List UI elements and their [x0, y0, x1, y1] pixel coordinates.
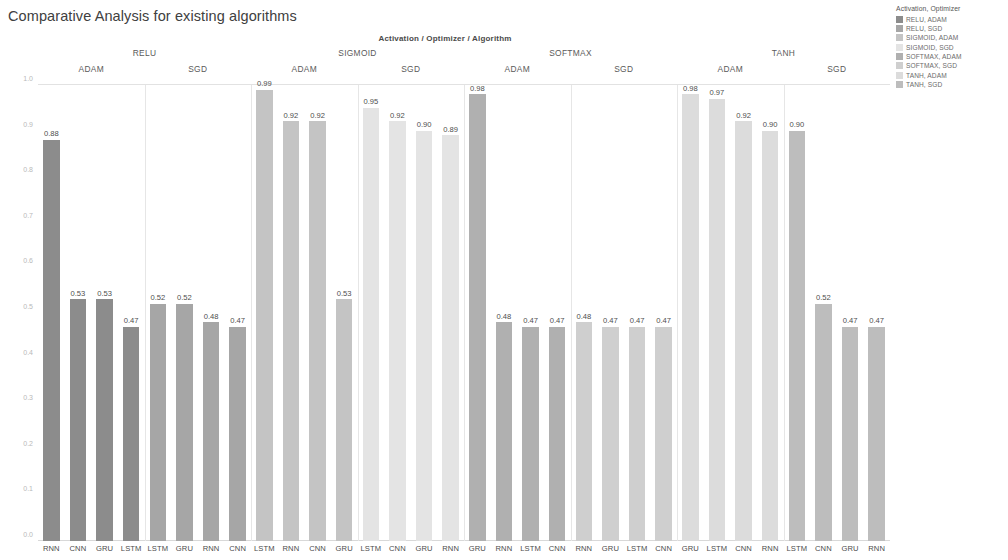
- bar[interactable]: 0.98GRU: [469, 94, 486, 541]
- bar-value-label: 0.48: [576, 312, 591, 321]
- x-axis-tick-label: LSTM: [147, 544, 168, 553]
- bar[interactable]: 0.97LSTM: [709, 99, 726, 541]
- bar[interactable]: 0.90GRU: [416, 131, 433, 541]
- bar[interactable]: 0.92CNN: [389, 121, 406, 541]
- bar[interactable]: 0.53CNN: [70, 299, 87, 541]
- bar-value-label: 0.53: [71, 289, 86, 298]
- bar-value-label: 0.47: [630, 316, 645, 325]
- bar-value-label: 0.47: [656, 316, 671, 325]
- y-axis-tick: 0.3: [23, 394, 33, 401]
- x-axis-tick-label: GRU: [415, 544, 432, 553]
- bar[interactable]: 0.90LSTM: [789, 131, 806, 541]
- bar[interactable]: 0.48RNN: [576, 322, 593, 541]
- bar[interactable]: 0.99LSTM: [256, 90, 273, 541]
- legend-item[interactable]: RELU, ADAM: [896, 15, 1008, 24]
- x-axis-tick-label: CNN: [735, 544, 752, 553]
- bar[interactable]: 0.53GRU: [96, 299, 113, 541]
- bar[interactable]: 0.92RNN: [283, 121, 300, 541]
- bar[interactable]: 0.52LSTM: [150, 304, 167, 541]
- legend-item[interactable]: SOFTMAX, SGD: [896, 61, 1008, 70]
- legend-items: RELU, ADAMRELU, SGDSIGMOID, ADAMSIGMOID,…: [896, 15, 1008, 90]
- x-axis-tick-label: RNN: [283, 544, 300, 553]
- optimizer-header: SGD: [358, 64, 465, 74]
- group-separator: [145, 85, 146, 541]
- bar[interactable]: 0.48RNN: [203, 322, 220, 541]
- bar-value-label: 0.89: [443, 125, 458, 134]
- group-separator: [251, 85, 252, 541]
- bar[interactable]: 0.98GRU: [682, 94, 699, 541]
- x-axis-tick-label: RNN: [496, 544, 513, 553]
- activation-header: SOFTMAX: [464, 48, 677, 58]
- bar[interactable]: 0.90RNN: [762, 131, 779, 541]
- bar[interactable]: 0.92CNN: [309, 121, 326, 541]
- optimizer-header: ADAM: [464, 64, 571, 74]
- bar-value-label: 0.98: [470, 84, 485, 93]
- bar-value-label: 0.88: [44, 129, 59, 138]
- legend-swatch-icon: [896, 16, 903, 23]
- bar[interactable]: 0.52GRU: [176, 304, 193, 541]
- legend-swatch-icon: [896, 81, 903, 88]
- bar-value-label: 0.52: [177, 293, 192, 302]
- y-axis-tick: 0.6: [23, 257, 33, 264]
- bar-value-label: 0.90: [417, 120, 432, 129]
- activation-header: SIGMOID: [251, 48, 464, 58]
- legend-swatch-icon: [896, 53, 903, 60]
- bar[interactable]: 0.47CNN: [655, 327, 672, 541]
- y-axis-tick: 0.8: [23, 166, 33, 173]
- legend-item[interactable]: TANH, ADAM: [896, 71, 1008, 80]
- legend-item[interactable]: TANH, SGD: [896, 80, 1008, 89]
- x-axis-tick-label: RNN: [868, 544, 885, 553]
- bar[interactable]: 0.52CNN: [815, 304, 832, 541]
- optimizer-header: SGD: [145, 64, 252, 74]
- legend-item[interactable]: SIGMOID, ADAM: [896, 33, 1008, 42]
- legend-item-label: RELU, SGD: [906, 25, 942, 32]
- bar-value-label: 0.53: [337, 289, 352, 298]
- bar[interactable]: 0.47LSTM: [629, 327, 646, 541]
- bar[interactable]: 0.48RNN: [496, 322, 513, 541]
- bar[interactable]: 0.47CNN: [229, 327, 246, 541]
- x-axis-tick-label: LSTM: [627, 544, 648, 553]
- legend-swatch-icon: [896, 62, 903, 69]
- legend-item-label: TANH, SGD: [906, 81, 942, 88]
- bar[interactable]: 0.89RNN: [442, 135, 459, 541]
- bar[interactable]: 0.95LSTM: [363, 108, 380, 541]
- legend-item[interactable]: SOFTMAX, ADAM: [896, 52, 1008, 61]
- bar[interactable]: 0.47GRU: [842, 327, 859, 541]
- bar-value-label: 0.92: [736, 111, 751, 120]
- bar[interactable]: 0.88RNN: [43, 140, 60, 541]
- bar[interactable]: 0.53GRU: [336, 299, 353, 541]
- y-axis-tick: 0.7: [23, 211, 33, 218]
- group-separator: [571, 85, 572, 541]
- legend: Activation, Optimizer RELU, ADAMRELU, SG…: [896, 5, 1008, 90]
- y-axis-tick: 0.9: [23, 120, 33, 127]
- legend-item-label: SOFTMAX, SGD: [906, 62, 957, 69]
- bar[interactable]: 0.47RNN: [868, 327, 885, 541]
- bar-value-label: 0.48: [204, 312, 219, 321]
- x-axis-tick-label: RNN: [575, 544, 592, 553]
- bar[interactable]: 0.47CNN: [549, 327, 566, 541]
- bar-value-label: 0.47: [230, 316, 245, 325]
- legend-item-label: SIGMOID, ADAM: [906, 34, 958, 41]
- x-axis-tick-label: LSTM: [360, 544, 381, 553]
- x-axis-tick-label: GRU: [469, 544, 486, 553]
- legend-item-label: RELU, ADAM: [906, 16, 947, 23]
- bar[interactable]: 0.92CNN: [735, 121, 752, 541]
- bar-value-label: 0.52: [150, 293, 165, 302]
- bar[interactable]: 0.47LSTM: [522, 327, 539, 541]
- x-axis-tick-label: LSTM: [707, 544, 728, 553]
- legend-item[interactable]: RELU, SGD: [896, 24, 1008, 33]
- x-axis-tick-label: LSTM: [254, 544, 275, 553]
- bar-value-label: 0.47: [843, 316, 858, 325]
- x-axis-tick-label: RNN: [762, 544, 779, 553]
- x-axis-tick-label: CNN: [229, 544, 246, 553]
- legend-item[interactable]: SIGMOID, SGD: [896, 43, 1008, 52]
- y-axis-tick: 0.2: [23, 439, 33, 446]
- bar[interactable]: 0.47LSTM: [123, 327, 140, 541]
- y-axis-tick: 0.5: [23, 303, 33, 310]
- x-axis-tick-label: RNN: [203, 544, 220, 553]
- x-axis-tick-label: GRU: [841, 544, 858, 553]
- bar[interactable]: 0.47GRU: [602, 327, 619, 541]
- x-axis-tick-label: CNN: [655, 544, 672, 553]
- x-axis-tick-label: RNN: [442, 544, 459, 553]
- optimizer-header: ADAM: [677, 64, 784, 74]
